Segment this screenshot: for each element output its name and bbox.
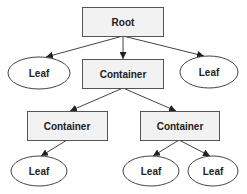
container-label: Container	[157, 121, 204, 132]
node-leaf-bottom-left: Leaf	[11, 156, 67, 186]
node-leaf-bottom-middle: Leaf	[123, 156, 179, 186]
node-leaf-bottom-right: Leaf	[188, 156, 238, 186]
edge-container1-container2	[70, 88, 123, 111]
container-label: Container	[44, 121, 91, 132]
edge-container2-leaf3	[41, 140, 67, 156]
node-container-right: Container	[141, 112, 220, 141]
leaf-label: Leaf	[199, 67, 220, 78]
node-container-middle: Container	[83, 60, 164, 89]
leaf-label: Leaf	[141, 166, 162, 177]
edge-root-leaf2	[123, 36, 204, 56]
edge-container3-leaf4	[153, 140, 179, 156]
edge-container1-container3	[123, 88, 176, 111]
node-root: Root	[83, 8, 164, 37]
edge-root-leaf1	[46, 36, 123, 57]
leaf-label: Leaf	[29, 68, 50, 79]
tree-diagram: Root Leaf Container Leaf Container Conta…	[0, 0, 247, 194]
node-leaf-left: Leaf	[8, 57, 70, 89]
edge-container3-leaf5	[179, 140, 210, 156]
container-label: Container	[100, 69, 147, 80]
leaf-label: Leaf	[203, 166, 224, 177]
node-container-left: Container	[28, 112, 108, 141]
root-label: Root	[112, 17, 135, 28]
node-leaf-right: Leaf	[180, 56, 238, 88]
leaf-label: Leaf	[29, 166, 50, 177]
